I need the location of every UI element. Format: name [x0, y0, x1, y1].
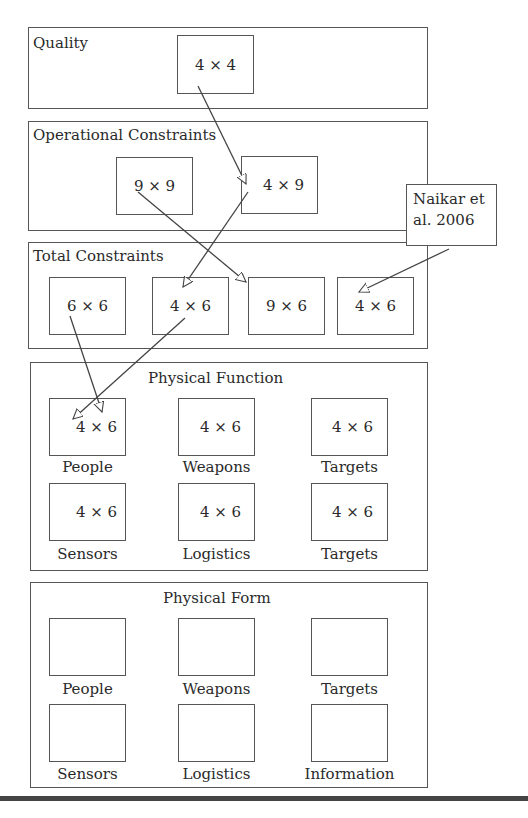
function-label-logistics: Logistics: [166, 545, 267, 563]
total-cell-9x6: 9 × 6: [248, 277, 325, 335]
function-label-weapons: Weapons: [166, 458, 267, 476]
cell-value: 9 × 9: [134, 177, 175, 195]
form-label-weapons: Weapons: [166, 680, 267, 698]
form-label-people: People: [49, 680, 126, 698]
function-label-sensors: Sensors: [49, 545, 126, 563]
cell-value: 9 × 6: [266, 297, 307, 315]
function-cell-weapons: 4 × 6: [178, 398, 255, 456]
cell-value: 4 × 6: [192, 503, 241, 521]
form-cell-logistics: [178, 704, 255, 762]
form-cell-information: [311, 704, 388, 762]
cell-value: 4 × 6: [58, 503, 117, 521]
cell-value: 4 × 9: [255, 176, 304, 194]
form-label-targets: Targets: [311, 680, 388, 698]
citation-line-2: al. 2006: [413, 210, 490, 231]
total-cell-4x6-b: 4 × 6: [337, 277, 414, 335]
total-cell-6x6: 6 × 6: [49, 277, 126, 335]
quality-cell-4x4: 4 × 4: [177, 35, 254, 94]
cell-value: 4 × 6: [355, 297, 396, 315]
citation-line-1: Naikar et: [413, 189, 490, 210]
form-cell-targets: [311, 618, 388, 676]
form-cell-weapons: [178, 618, 255, 676]
layer-physical-form-title: Physical Form: [163, 589, 271, 607]
function-label-targets: Targets: [311, 458, 388, 476]
function-cell-people: 4 × 6: [49, 398, 126, 456]
total-cell-4x6-a: 4 × 6: [152, 277, 229, 335]
form-cell-people: [49, 618, 126, 676]
cell-value: 4 × 4: [195, 56, 236, 74]
cell-value: 4 × 6: [170, 297, 211, 315]
form-label-information: Information: [290, 765, 409, 783]
form-label-logistics: Logistics: [166, 765, 267, 783]
cell-value: 6 × 6: [67, 297, 108, 315]
cell-value: 4 × 6: [58, 418, 117, 436]
form-label-sensors: Sensors: [49, 765, 126, 783]
layer-quality-title: Quality: [33, 34, 88, 52]
operational-cell-4x9: 4 × 9: [241, 156, 318, 214]
cell-value: 4 × 6: [326, 418, 373, 436]
function-cell-logistics: 4 × 6: [178, 483, 255, 541]
cell-value: 4 × 6: [192, 418, 241, 436]
operational-cell-9x9: 9 × 9: [116, 157, 193, 215]
layer-operational-constraints-title: Operational Constraints: [33, 126, 216, 144]
function-cell-sensors: 4 × 6: [49, 483, 126, 541]
layer-total-constraints-title: Total Constraints: [33, 247, 164, 265]
function-cell-targets: 4 × 6: [311, 398, 388, 456]
bottom-rule-divider: [0, 796, 528, 801]
function-label-people: People: [49, 458, 126, 476]
layer-physical-function-title: Physical Function: [148, 369, 283, 387]
function-label-targets-2: Targets: [311, 545, 388, 563]
form-cell-sensors: [49, 704, 126, 762]
cell-value: 4 × 6: [326, 503, 373, 521]
function-cell-targets-2: 4 × 6: [311, 483, 388, 541]
citation-callout: Naikar et al. 2006: [406, 184, 497, 246]
